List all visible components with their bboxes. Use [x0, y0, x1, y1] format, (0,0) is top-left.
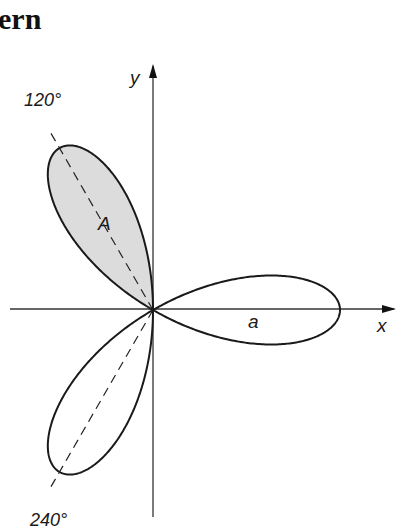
shaded-petal-label: A: [97, 213, 111, 234]
y-axis-label: y: [128, 67, 141, 88]
rose-diagram: y x 120° 240° A a: [0, 0, 406, 529]
angle-label-240: 240°: [29, 510, 67, 529]
right-petal-label: a: [248, 311, 259, 332]
angle-label-120: 120°: [24, 90, 61, 110]
x-axis-label: x: [376, 315, 388, 336]
